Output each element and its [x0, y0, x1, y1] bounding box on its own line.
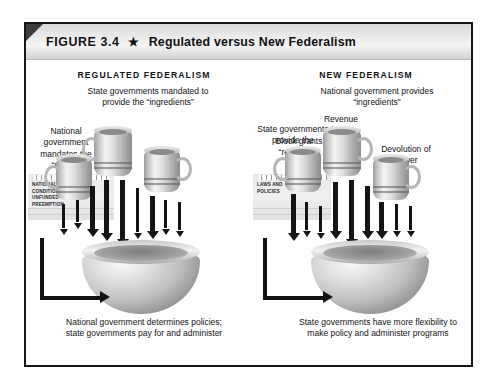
page-title: Regulated versus New Federalism: [149, 35, 356, 49]
caption-left-bottom: National government determines policies;…: [64, 317, 224, 340]
mug-handle-icon: [402, 165, 421, 189]
pour-arrow: [349, 180, 354, 240]
figure-number: FIGURE 3.4: [46, 35, 119, 49]
mug-right-left: [285, 150, 321, 192]
figure-title-band: FIGURE 3.4 ★ Regulated versus New Federa…: [26, 24, 471, 60]
pour-arrow: [409, 206, 412, 230]
notepad-line-2: POLICIES: [257, 189, 280, 195]
pour-arrow: [136, 188, 139, 232]
figure-frame: FIGURE 3.4 ★ Regulated versus New Federa…: [24, 22, 473, 367]
caption-left-top: State governments mandated to provide th…: [78, 86, 218, 109]
panel-new-federalism: NEW FEDERALISM National government provi…: [249, 62, 471, 367]
pour-arrow: [291, 194, 296, 234]
mug-handle-icon: [273, 157, 292, 181]
pour-arrow: [319, 206, 322, 232]
pour-arrow: [333, 182, 338, 232]
pour-arrow: [164, 200, 167, 228]
star-icon: ★: [128, 36, 139, 48]
caption-right-top: National government provides “ingredient…: [301, 86, 453, 109]
panel-heading-left: REGULATED FEDERALISM: [26, 70, 248, 80]
pour-arrow: [365, 186, 370, 232]
pour-arrow: [150, 196, 155, 232]
pour-arrow: [104, 180, 109, 234]
corner-fold-decoration: [26, 24, 43, 41]
pour-arrow: [395, 204, 398, 230]
mug-left-back-center: [94, 130, 132, 176]
pour-arrow: [120, 180, 125, 240]
pour-arrow: [305, 202, 308, 230]
pour-arrow: [178, 202, 181, 230]
notepad-line-1: LAWS AND: [257, 182, 283, 188]
mug-left-right: [144, 150, 180, 192]
pour-arrow: [90, 186, 95, 230]
pour-arrow: [379, 202, 384, 232]
mug-handle-icon: [44, 165, 63, 189]
mug-handle-icon: [354, 137, 373, 161]
pour-arrow: [62, 204, 65, 228]
figure-title: FIGURE 3.4 ★ Regulated versus New Federa…: [46, 24, 356, 60]
panel-regulated-federalism: REGULATED FEDERALISM State governments m…: [26, 62, 248, 367]
notepad-line-4: PREEMPTION: [32, 202, 64, 208]
mug-right-back-center: [323, 130, 361, 176]
panel-heading-right: NEW FEDERALISM: [249, 70, 471, 80]
pour-arrow: [76, 200, 79, 222]
caption-right-bottom: State governments have more flexibility …: [295, 317, 461, 340]
mug-left-front: [56, 158, 92, 200]
mug-right-front: [373, 158, 409, 200]
mug-handle-icon: [173, 157, 192, 181]
